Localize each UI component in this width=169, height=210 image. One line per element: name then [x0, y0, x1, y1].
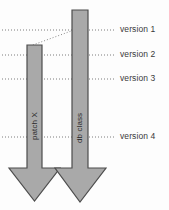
version-label-1: version 1: [120, 25, 155, 34]
version-gridlines: [2, 30, 116, 137]
version-label-4: version 4: [120, 132, 155, 141]
diagram-canvas: patch X db class version 1 version 2 ver…: [0, 0, 169, 210]
arrow-db-class[interactable]: [55, 10, 106, 202]
patch-origin-connector: [30, 30, 74, 46]
arrow-label-patch-x: patch X: [31, 112, 39, 140]
version-label-3: version 3: [120, 74, 155, 83]
version-label-2: version 2: [120, 50, 155, 59]
arrow-label-db-class: db class: [76, 113, 84, 143]
